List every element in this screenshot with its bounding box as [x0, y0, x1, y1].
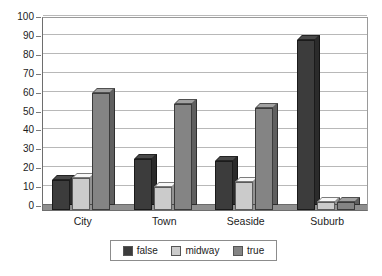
- bar-side: [273, 103, 278, 205]
- bar-top: [174, 99, 197, 104]
- legend: falsemidwaytrue: [110, 240, 277, 261]
- legend-label: true: [247, 245, 264, 256]
- bar-top-face: [297, 35, 320, 40]
- bar-side: [110, 88, 115, 205]
- bar-top: [134, 154, 157, 159]
- x-tick-label: Town: [124, 215, 206, 228]
- bar: [337, 197, 355, 210]
- bar-top: [215, 156, 238, 161]
- y-tick-mark: [36, 74, 41, 75]
- bar: [92, 88, 110, 210]
- x-tick-label: City: [42, 215, 124, 228]
- y-tick-mark: [36, 187, 41, 188]
- bar-face: [52, 180, 70, 210]
- bar-face: [235, 182, 253, 210]
- bar-side: [315, 35, 320, 205]
- plot-area: [42, 17, 368, 211]
- y-axis: 0102030405060708090100: [0, 17, 38, 211]
- legend-item[interactable]: midway: [171, 245, 219, 256]
- bar-top-face: [174, 99, 197, 104]
- y-tick-mark: [36, 93, 41, 94]
- y-tick-mark: [36, 112, 41, 113]
- bar-face: [134, 159, 152, 210]
- bar-face: [317, 202, 335, 210]
- gridline: [43, 15, 367, 16]
- y-tick-mark: [36, 55, 41, 56]
- bar-face: [337, 202, 355, 210]
- bar-top-face: [215, 156, 238, 161]
- bar: [235, 177, 253, 210]
- bar: [215, 156, 233, 210]
- legend-label: false: [137, 245, 158, 256]
- legend-swatch-icon: [171, 246, 181, 256]
- bar: [255, 103, 273, 210]
- y-tick-mark: [36, 168, 41, 169]
- legend-item[interactable]: true: [233, 245, 264, 256]
- y-tick-mark: [36, 149, 41, 150]
- legend-item[interactable]: false: [123, 245, 158, 256]
- bar: [317, 197, 335, 210]
- bar-group: [125, 18, 207, 210]
- bar-top: [92, 88, 115, 93]
- bar: [52, 175, 70, 210]
- x-axis-labels: CityTownSeasideSuburb: [42, 215, 368, 231]
- bar-face: [174, 104, 192, 210]
- bar-group: [206, 18, 288, 210]
- y-tick-label: 100: [0, 12, 34, 211]
- y-tick-mark: [36, 206, 41, 207]
- legend-label: midway: [185, 245, 219, 256]
- bar-face: [215, 161, 233, 210]
- bar-top-face: [134, 154, 157, 159]
- bar-face: [72, 178, 90, 210]
- y-tick-mark: [36, 36, 41, 37]
- bar: [72, 173, 90, 210]
- legend-swatch-icon: [123, 246, 133, 256]
- bar-group: [288, 18, 370, 210]
- bar-top: [337, 197, 360, 202]
- bar-face: [92, 93, 110, 210]
- x-tick-label: Suburb: [287, 215, 369, 228]
- bar-top-face: [337, 197, 360, 202]
- bar-group: [43, 18, 125, 210]
- bar: [134, 154, 152, 210]
- bar-top: [297, 35, 320, 40]
- y-tick-mark: [36, 130, 41, 131]
- y-tick-mark: [36, 17, 41, 18]
- bar: [174, 99, 192, 210]
- legend-swatch-icon: [233, 246, 243, 256]
- bar-side: [192, 99, 197, 205]
- bar-face: [297, 40, 315, 210]
- x-tick-label: Seaside: [205, 215, 287, 228]
- bar-top-face: [255, 103, 278, 108]
- bar: [297, 35, 315, 210]
- bar-chart: 0102030405060708090100 CityTownSeasideSu…: [0, 0, 382, 276]
- bar-top-face: [92, 88, 115, 93]
- bar: [154, 182, 172, 210]
- bar-top: [255, 103, 278, 108]
- bar-face: [154, 187, 172, 210]
- bar-face: [255, 108, 273, 210]
